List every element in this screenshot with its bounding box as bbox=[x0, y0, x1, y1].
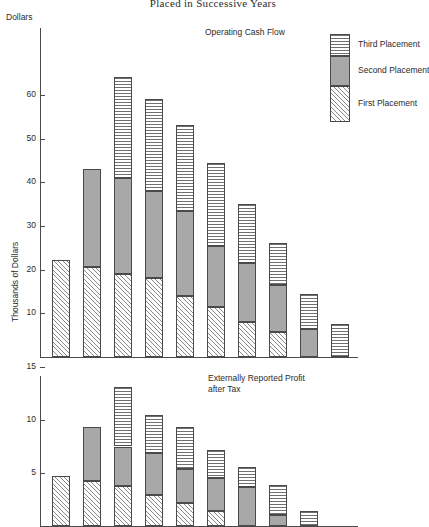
bar-segment[interactable] bbox=[114, 486, 132, 526]
legend-swatch-first bbox=[330, 86, 350, 122]
bar-group[interactable] bbox=[269, 485, 287, 526]
bar-segment[interactable] bbox=[176, 211, 194, 296]
y-axis-tick bbox=[40, 473, 45, 474]
bar-segment[interactable] bbox=[114, 77, 132, 178]
y-axis-tick bbox=[40, 313, 45, 314]
bar-segment[interactable] bbox=[238, 487, 256, 526]
chart-operating-cash-flow: Dollars Thousands of Dollars Operating C… bbox=[0, 12, 426, 360]
bar-segment[interactable] bbox=[176, 503, 194, 526]
bar-segment[interactable] bbox=[114, 387, 132, 446]
bar-group[interactable] bbox=[83, 427, 101, 526]
bar-segment[interactable] bbox=[114, 178, 132, 274]
bar-segment[interactable] bbox=[269, 285, 287, 332]
bar-group[interactable] bbox=[207, 450, 225, 526]
bar-segment[interactable] bbox=[114, 447, 132, 486]
bar-group[interactable] bbox=[52, 476, 70, 526]
bar-segment[interactable] bbox=[83, 169, 101, 267]
bar-segment[interactable] bbox=[176, 125, 194, 210]
bar-segment[interactable] bbox=[269, 332, 287, 357]
y-axis-tick-label: 10 bbox=[10, 307, 36, 317]
x-axis-line bbox=[40, 357, 358, 358]
bar-segment[interactable] bbox=[114, 274, 132, 357]
y-axis-tick bbox=[40, 95, 45, 96]
y-axis-tick bbox=[40, 182, 45, 183]
bar-segment[interactable] bbox=[207, 450, 225, 479]
plot-area-bottom: 51015 bbox=[0, 370, 426, 526]
bar-segment[interactable] bbox=[269, 485, 287, 516]
bar-group[interactable] bbox=[145, 415, 163, 526]
y-axis-tick-label: 30 bbox=[10, 220, 36, 230]
bar-segment[interactable] bbox=[331, 324, 349, 357]
bar-segment[interactable] bbox=[145, 495, 163, 526]
bar-segment[interactable] bbox=[83, 427, 101, 481]
bar-segment[interactable] bbox=[145, 99, 163, 191]
bar-group[interactable] bbox=[300, 294, 318, 357]
y-axis-tick bbox=[40, 226, 45, 227]
legend-label-second: Second Placement bbox=[358, 65, 429, 75]
bar-group[interactable] bbox=[300, 511, 318, 526]
legend-label-first: First Placement bbox=[358, 98, 417, 108]
legend-swatch-third bbox=[330, 34, 350, 56]
bar-segment[interactable] bbox=[176, 427, 194, 468]
y-axis-tick bbox=[40, 420, 45, 421]
y-axis-tick bbox=[40, 270, 45, 271]
y-axis-tick-label: 5 bbox=[10, 467, 36, 477]
bar-group[interactable] bbox=[176, 427, 194, 526]
bar-segment[interactable] bbox=[207, 511, 225, 526]
bar-segment[interactable] bbox=[145, 191, 163, 278]
y-axis-tick-label: 20 bbox=[10, 264, 36, 274]
bar-segment[interactable] bbox=[269, 515, 287, 526]
bar-segment[interactable] bbox=[300, 511, 318, 526]
bar-segment[interactable] bbox=[238, 204, 256, 263]
y-axis-tick bbox=[40, 367, 45, 368]
bar-group[interactable] bbox=[114, 387, 132, 526]
y-axis-tick-label: 50 bbox=[10, 133, 36, 143]
chart-externally-reported-profit: Externally Reported Profit after Tax 510… bbox=[0, 370, 426, 526]
bar-group[interactable] bbox=[83, 169, 101, 357]
bar-group[interactable] bbox=[114, 77, 132, 357]
legend-swatch-second bbox=[330, 56, 350, 86]
legend-label-third: Third Placement bbox=[358, 39, 420, 49]
bar-group[interactable] bbox=[176, 125, 194, 357]
bar-group[interactable] bbox=[52, 260, 70, 357]
bar-segment[interactable] bbox=[238, 322, 256, 357]
bar-segment[interactable] bbox=[145, 453, 163, 495]
y-axis-line bbox=[40, 28, 41, 357]
bar-segment[interactable] bbox=[83, 481, 101, 526]
bar-segment[interactable] bbox=[176, 469, 194, 503]
y-axis-tick-label: 60 bbox=[10, 89, 36, 99]
bar-segment[interactable] bbox=[83, 267, 101, 357]
bar-segment[interactable] bbox=[176, 296, 194, 357]
bar-group[interactable] bbox=[207, 163, 225, 357]
bar-segment[interactable] bbox=[145, 278, 163, 357]
bar-segment[interactable] bbox=[207, 163, 225, 245]
bar-segment[interactable] bbox=[300, 329, 318, 357]
bar-segment[interactable] bbox=[300, 294, 318, 329]
bar-group[interactable] bbox=[331, 324, 349, 357]
bar-segment[interactable] bbox=[52, 260, 70, 357]
bar-segment[interactable] bbox=[145, 415, 163, 453]
bar-segment[interactable] bbox=[238, 467, 256, 487]
bar-segment[interactable] bbox=[207, 478, 225, 511]
bar-segment[interactable] bbox=[269, 243, 287, 285]
bar-group[interactable] bbox=[145, 99, 163, 357]
y-axis-tick-label: 15 bbox=[10, 361, 36, 371]
bar-segment[interactable] bbox=[238, 263, 256, 322]
bar-group[interactable] bbox=[238, 467, 256, 526]
y-axis-tick bbox=[40, 139, 45, 140]
bar-segment[interactable] bbox=[207, 307, 225, 357]
y-axis-line bbox=[40, 376, 41, 526]
bar-group[interactable] bbox=[238, 204, 256, 357]
bar-segment[interactable] bbox=[52, 476, 70, 526]
y-axis-tick-label: 40 bbox=[10, 176, 36, 186]
bar-segment[interactable] bbox=[207, 246, 225, 307]
y-axis-tick-label: 10 bbox=[10, 414, 36, 424]
figure-title: Placed in Successive Years bbox=[0, 0, 426, 9]
bar-group[interactable] bbox=[269, 243, 287, 357]
